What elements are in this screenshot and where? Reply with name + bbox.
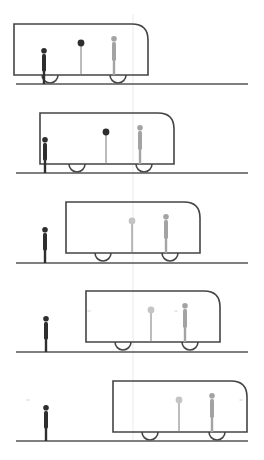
head-shape [137,125,143,131]
frame-3 [16,202,248,263]
passenger-figure [182,303,188,342]
post-ball [103,129,110,136]
passenger-figure [111,36,117,75]
frame-2 [16,113,248,173]
post-ball [148,307,155,314]
torso-shape [112,42,116,61]
wheel-1 [142,432,158,440]
legs-shape [139,148,141,164]
head-shape [163,214,169,220]
train-car [86,291,220,342]
torso-shape [210,399,214,418]
torso-shape [42,54,46,71]
legs-shape [44,159,46,173]
wheel-2 [162,253,178,261]
head-shape [209,393,215,399]
post-ball [78,40,85,47]
torso-shape [183,309,187,328]
wheel-1 [115,342,131,350]
observer-figure [42,227,48,263]
post-ball [176,397,183,404]
head-shape [43,405,49,411]
frame-1 [14,24,248,84]
train-relativity-diagram: Moving train relative to stationary obse… [0,0,264,460]
observer-figure [42,137,48,173]
head-shape [42,137,48,143]
frame-5 [16,381,248,441]
legs-shape [184,326,186,342]
wheel-1 [69,164,85,172]
legs-shape [43,70,45,84]
frame-4 [16,291,248,352]
head-shape [182,303,188,309]
observer-figure [43,316,49,352]
head-shape [111,36,117,42]
legs-shape [165,237,167,253]
wheel-1 [95,253,111,261]
wheel-2 [182,342,198,350]
wheel-2 [136,164,152,172]
passenger-figure [163,214,169,253]
legs-shape [44,249,46,263]
passenger-figure [209,393,215,432]
torso-shape [44,322,48,339]
legs-shape [211,416,213,432]
legs-shape [45,427,47,441]
observer-figure [43,405,49,441]
train-car [40,113,174,164]
legs-shape [113,59,115,75]
head-shape [42,227,48,233]
head-shape [43,316,49,322]
wheel-2 [110,75,126,83]
torso-shape [43,143,47,160]
torso-shape [164,220,168,239]
legs-shape [45,338,47,352]
diagram-canvas: Moving train relative to stationary obse… [0,0,264,460]
passenger-figure [137,125,143,164]
head-shape [41,48,47,54]
post-ball [129,218,136,225]
torso-shape [138,131,142,150]
torso-shape [44,411,48,428]
torso-shape [43,233,47,250]
wheel-2 [209,432,225,440]
